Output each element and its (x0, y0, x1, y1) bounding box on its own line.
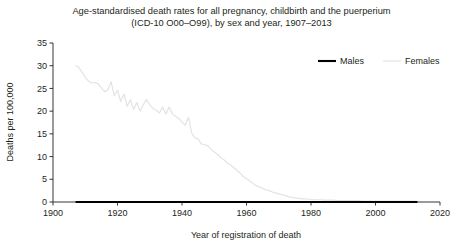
y-axis-title: Deaths per 100,000 (5, 82, 15, 161)
y-tick-label: 5 (42, 174, 47, 184)
x-tick-label: 2000 (365, 208, 385, 218)
line-chart-plot: 05101520253035 Deaths per 100,000 190019… (0, 0, 463, 246)
x-tick-label: 1980 (301, 208, 321, 218)
x-axis-tick-labels: 1900192019401960198020002020 (43, 208, 450, 218)
legend-label-males: Males (340, 56, 365, 66)
y-axis-tick-labels: 05101520253035 (37, 38, 47, 207)
x-tick-label: 1940 (172, 208, 192, 218)
y-axis-ticks (50, 43, 54, 202)
x-tick-label: 2020 (430, 208, 450, 218)
chart-legend: MalesFemales (318, 56, 440, 66)
y-tick-label: 15 (37, 129, 47, 139)
x-tick-label: 1920 (107, 208, 127, 218)
series-line-females (76, 65, 418, 201)
y-tick-label: 35 (37, 38, 47, 48)
y-tick-label: 25 (37, 84, 47, 94)
x-axis: 1900192019401960198020002020 Year of reg… (43, 202, 450, 240)
x-axis-title: Year of registration of death (191, 230, 301, 240)
y-tick-label: 0 (42, 197, 47, 207)
y-tick-label: 20 (37, 106, 47, 116)
data-series-group (76, 65, 418, 202)
chart-figure: Age-standardised death rates for all pre… (0, 0, 463, 246)
x-tick-label: 1900 (43, 208, 63, 218)
x-tick-label: 1960 (236, 208, 256, 218)
legend-label-females: Females (405, 56, 440, 66)
y-tick-label: 10 (37, 152, 47, 162)
y-axis: 05101520253035 Deaths per 100,000 (5, 38, 53, 207)
y-tick-label: 30 (37, 61, 47, 71)
